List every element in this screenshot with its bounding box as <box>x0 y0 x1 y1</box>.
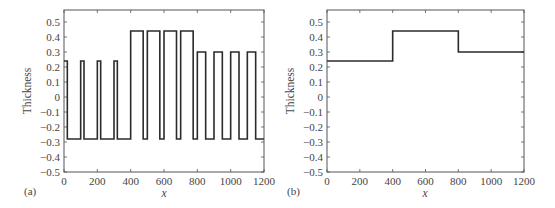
y-tick-label: −0.1 <box>303 106 323 118</box>
y-tick-label: −0.2 <box>303 121 323 133</box>
y-tick-label: −0.2 <box>40 121 60 133</box>
x-tick-label: 800 <box>450 175 467 187</box>
x-axis-ticks: 020040060080010001200 <box>324 10 535 187</box>
x-axis-label: x <box>160 187 167 199</box>
x-axis-label: x <box>421 187 428 199</box>
x-tick-label: 200 <box>89 175 106 187</box>
y-tick-label: −0.5 <box>303 166 323 178</box>
figure: −0.5−0.4−0.3−0.2−0.100.10.20.30.40.5 020… <box>0 0 555 208</box>
y-tick-label: −0.4 <box>303 151 323 163</box>
x-tick-label: 200 <box>352 175 369 187</box>
y-tick-label: 0.4 <box>309 31 323 43</box>
chart-panel-a: −0.5−0.4−0.3−0.2−0.100.10.20.30.40.5 020… <box>21 10 276 199</box>
x-tick-label: 600 <box>417 175 434 187</box>
y-axis-label: Thickness <box>21 67 33 114</box>
y-tick-label: −0.5 <box>40 166 60 178</box>
plot-frame <box>327 10 524 172</box>
y-tick-label: 0.1 <box>46 76 60 88</box>
x-tick-label: 1000 <box>480 175 503 187</box>
y-tick-label: −0.3 <box>303 136 323 148</box>
x-axis-ticks: 020040060080010001200 <box>61 10 275 187</box>
x-tick-label: 0 <box>61 175 67 187</box>
thickness-line <box>64 31 264 139</box>
chart-panel-b: −0.5−0.4−0.3−0.2−0.100.10.20.30.40.5 020… <box>284 10 536 199</box>
y-tick-label: 0.2 <box>46 61 60 73</box>
y-tick-label: 0.3 <box>46 46 60 58</box>
y-tick-label: 0 <box>55 91 61 103</box>
y-axis-ticks: −0.5−0.4−0.3−0.2−0.100.10.20.30.40.5 <box>303 16 524 178</box>
y-tick-label: 0.5 <box>309 16 323 28</box>
x-tick-label: 600 <box>156 175 173 187</box>
panel-label: (b) <box>287 185 300 198</box>
x-tick-label: 0 <box>324 175 330 187</box>
x-tick-label: 1200 <box>513 175 536 187</box>
x-tick-label: 800 <box>189 175 206 187</box>
y-tick-label: −0.4 <box>40 151 60 163</box>
y-tick-label: 0.3 <box>309 46 323 58</box>
thickness-line <box>327 31 524 61</box>
panel-label: (a) <box>24 185 37 198</box>
x-tick-label: 400 <box>122 175 139 187</box>
y-axis-label: Thickness <box>284 67 296 114</box>
y-tick-label: 0.2 <box>309 61 323 73</box>
y-tick-label: 0.5 <box>46 16 60 28</box>
y-tick-label: −0.1 <box>40 106 60 118</box>
x-tick-label: 1000 <box>220 175 243 187</box>
y-tick-label: 0 <box>318 91 324 103</box>
y-tick-label: 0.4 <box>46 31 60 43</box>
y-tick-label: −0.3 <box>40 136 60 148</box>
y-tick-label: 0.1 <box>309 76 323 88</box>
x-tick-label: 1200 <box>253 175 276 187</box>
x-tick-label: 400 <box>384 175 401 187</box>
